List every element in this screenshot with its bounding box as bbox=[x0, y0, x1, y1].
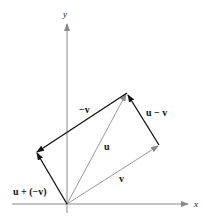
label-u-plus-neg-v: u + (−v) bbox=[13, 186, 47, 198]
vector-neg-v bbox=[37, 93, 127, 152]
label-u: u bbox=[104, 141, 110, 152]
vector-v bbox=[67, 146, 158, 204]
vector-diagram: x y −v u u − v v u + (−v) bbox=[0, 0, 204, 223]
label-u-minus-v: u − v bbox=[146, 107, 167, 118]
axes: x y bbox=[12, 9, 198, 213]
label-v: v bbox=[119, 173, 124, 184]
y-axis-label: y bbox=[62, 9, 67, 19]
vector-u bbox=[67, 94, 126, 204]
label-neg-v: −v bbox=[79, 104, 90, 115]
x-axis-label: x bbox=[193, 199, 198, 209]
vector-u-minus-v bbox=[128, 95, 159, 145]
